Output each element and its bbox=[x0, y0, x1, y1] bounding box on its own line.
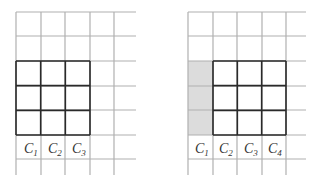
left-column-label-2: C2 bbox=[48, 141, 62, 158]
diagram-canvas: C1C2C3 C1C2C3C4 bbox=[0, 0, 320, 180]
left-column-label-1: C1 bbox=[24, 141, 38, 158]
right-column-label-3: C3 bbox=[244, 141, 258, 158]
shaded-column bbox=[188, 61, 213, 135]
left-grid: C1C2C3 bbox=[16, 12, 136, 175]
right-highlight-box bbox=[213, 61, 286, 135]
right-grid: C1C2C3C4 bbox=[188, 12, 306, 175]
left-column-label-3: C3 bbox=[72, 141, 86, 158]
left-highlight-box bbox=[16, 61, 90, 135]
right-column-label-1: C1 bbox=[195, 141, 209, 158]
right-column-label-2: C2 bbox=[219, 141, 233, 158]
right-column-label-4: C4 bbox=[268, 141, 282, 158]
